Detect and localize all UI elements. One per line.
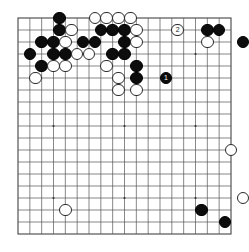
stone-black[interactable] xyxy=(118,36,131,49)
stone-white[interactable] xyxy=(47,60,60,73)
stone-white[interactable] xyxy=(130,84,143,97)
stone-black[interactable] xyxy=(201,24,214,37)
stone-move-number: 1 xyxy=(164,74,168,81)
stone-white[interactable] xyxy=(59,204,72,217)
stone-white[interactable] xyxy=(237,192,249,205)
stone-black[interactable] xyxy=(118,48,131,61)
stone-black[interactable] xyxy=(53,24,66,37)
stone-white[interactable] xyxy=(130,24,143,37)
stone-black[interactable] xyxy=(35,60,48,73)
stone-white[interactable] xyxy=(130,36,143,49)
stone-black[interactable] xyxy=(106,24,119,37)
stone-black[interactable] xyxy=(195,204,208,217)
stone-black[interactable] xyxy=(237,36,249,49)
go-board[interactable]: 21 xyxy=(12,12,237,240)
stone-black[interactable] xyxy=(47,36,60,49)
stone-black[interactable] xyxy=(118,24,131,37)
stone-white[interactable] xyxy=(201,36,214,49)
stone-white[interactable] xyxy=(65,24,78,37)
stone-move-number: 2 xyxy=(176,26,180,33)
stone-black[interactable] xyxy=(35,36,48,49)
stone-white[interactable] xyxy=(112,84,125,97)
stone-white[interactable] xyxy=(112,12,125,25)
stone-white[interactable] xyxy=(59,60,72,73)
stone-white[interactable] xyxy=(59,36,72,49)
stone-black[interactable] xyxy=(47,48,60,61)
stone-white[interactable] xyxy=(124,12,137,25)
go-diagram-screen: 21 xyxy=(0,0,249,252)
stone-black[interactable] xyxy=(53,12,66,25)
stone-black[interactable] xyxy=(130,60,143,73)
stone-white[interactable] xyxy=(112,72,125,85)
stone-black[interactable] xyxy=(106,48,119,61)
stone-black[interactable] xyxy=(59,48,72,61)
stone-black[interactable] xyxy=(130,72,143,85)
